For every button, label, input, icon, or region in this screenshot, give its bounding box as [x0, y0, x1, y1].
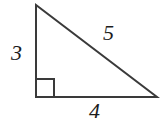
- side-label-hypotenuse: 5: [103, 22, 114, 44]
- right-triangle-figure: 3 5 4: [0, 0, 166, 125]
- side-label-horizontal-leg: 4: [89, 100, 100, 122]
- triangle-drawing: [0, 0, 166, 125]
- right-angle-marker-icon: [37, 79, 54, 96]
- side-label-vertical-leg: 3: [11, 42, 22, 64]
